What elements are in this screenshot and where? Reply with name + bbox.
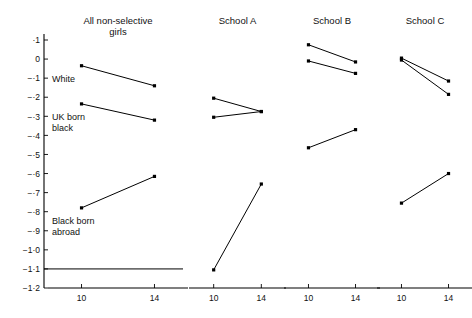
- data-point-marker: [153, 84, 156, 87]
- panel-title-school-b: School B: [313, 15, 351, 26]
- x-tick-label: 14: [257, 293, 267, 303]
- y-tick-label: ·1: [32, 35, 40, 45]
- x-tick-label: 14: [150, 293, 160, 303]
- data-point-marker: [400, 58, 403, 61]
- series-line-uk-born-black: [82, 104, 155, 120]
- data-point-marker: [307, 43, 310, 46]
- data-point-marker: [212, 116, 215, 119]
- y-tick-label: −·4: [27, 131, 40, 141]
- series-line-uk-born-black: [214, 112, 262, 118]
- data-point-marker: [307, 146, 310, 149]
- series-annotation-white: White: [52, 74, 75, 84]
- series-line-white: [308, 45, 355, 62]
- data-point-marker: [447, 93, 450, 96]
- data-point-marker: [354, 128, 357, 131]
- data-point-marker: [153, 175, 156, 178]
- y-tick-label: −·7: [27, 188, 40, 198]
- x-tick-label: 10: [77, 293, 87, 303]
- series-line-uk-born-black: [308, 61, 355, 73]
- data-point-marker: [307, 59, 310, 62]
- data-point-marker: [212, 268, 215, 271]
- x-tick-label: 10: [304, 293, 314, 303]
- data-point-marker: [400, 202, 403, 205]
- data-point-marker: [447, 79, 450, 82]
- series-line-black-born-abroad: [308, 130, 355, 148]
- y-tick-label: −·1: [27, 73, 40, 83]
- data-point-marker: [80, 102, 83, 105]
- data-point-marker: [153, 119, 156, 122]
- panel-title-all-non-selective-girls: All non-selective: [83, 15, 152, 26]
- series-line-black-born-abroad: [401, 174, 448, 204]
- series-annotation-uk-born-black: black: [52, 123, 74, 133]
- x-tick-label: 14: [351, 293, 361, 303]
- series-annotation-black-born-abroad: abroad: [52, 227, 80, 237]
- x-tick-label: 14: [444, 293, 454, 303]
- series-annotation-uk-born-black: UK born: [52, 112, 85, 122]
- y-tick-label: −·5: [27, 150, 40, 160]
- data-point-marker: [212, 97, 215, 100]
- series-line-white: [82, 66, 155, 86]
- x-tick-label: 10: [397, 293, 407, 303]
- chart-root: ·10−·1−·2−·3−·4−·5−·6−·7−·8−·9−1·0−1·1−1…: [0, 0, 472, 318]
- y-tick-label: 0: [35, 54, 40, 64]
- y-tick-label: −1·0: [23, 245, 41, 255]
- panel-title-line2-all-non-selective-girls: girls: [109, 26, 127, 37]
- y-tick-label: −1·1: [23, 264, 41, 274]
- data-point-marker: [80, 64, 83, 67]
- series-line-black-born-abroad: [214, 184, 262, 270]
- y-tick-label: −1·2: [23, 283, 41, 293]
- series-annotation-black-born-abroad: Black born: [52, 216, 95, 226]
- x-tick-label: 10: [209, 293, 219, 303]
- data-point-marker: [260, 110, 263, 113]
- y-tick-label: −·3: [27, 112, 40, 122]
- y-tick-label: −·9: [27, 226, 40, 236]
- panel-title-school-a: School A: [219, 15, 257, 26]
- y-tick-label: −·2: [27, 92, 40, 102]
- series-line-white: [214, 98, 262, 111]
- panel-title-school-c: School C: [406, 15, 445, 26]
- series-line-black-born-abroad: [82, 176, 155, 207]
- data-point-marker: [80, 206, 83, 209]
- data-point-marker: [354, 60, 357, 63]
- data-point-marker: [260, 182, 263, 185]
- y-tick-label: −·6: [27, 169, 40, 179]
- data-point-marker: [354, 72, 357, 75]
- data-point-marker: [447, 172, 450, 175]
- y-tick-label: −·8: [27, 207, 40, 217]
- trellis-line-chart: ·10−·1−·2−·3−·4−·5−·6−·7−·8−·9−1·0−1·1−1…: [0, 0, 472, 318]
